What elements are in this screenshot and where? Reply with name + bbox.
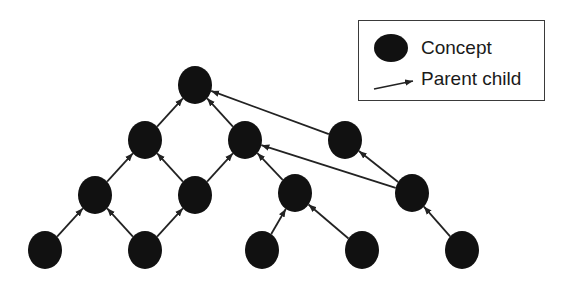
- concept-node: [128, 121, 162, 159]
- concept-node: [178, 66, 212, 104]
- concept-node: [228, 121, 262, 159]
- concept-node: [245, 231, 279, 269]
- parent-child-edge: [309, 205, 349, 239]
- parent-child-edge: [207, 98, 233, 126]
- parent-child-arrow-icon: [374, 81, 413, 89]
- parent-child-edge: [157, 98, 183, 126]
- parent-child-edge: [157, 208, 183, 236]
- parent-child-edge: [107, 153, 133, 181]
- parent-child-edge: [57, 208, 83, 236]
- concept-node: [128, 231, 162, 269]
- legend-concept-label: Concept: [421, 37, 492, 59]
- edges: [57, 91, 450, 239]
- parent-child-edge: [261, 145, 395, 188]
- concept-node-icon: [374, 34, 408, 62]
- parent-child-edge: [157, 153, 183, 181]
- concept-node: [78, 176, 112, 214]
- parent-child-edge: [424, 207, 450, 237]
- concept-node: [395, 174, 429, 212]
- concept-node: [445, 231, 479, 269]
- parent-child-edge: [207, 153, 233, 181]
- parent-child-edge: [257, 153, 282, 180]
- parent-child-edge: [211, 91, 329, 134]
- parent-child-edge: [271, 209, 286, 234]
- concept-node: [328, 121, 362, 159]
- concept-node: [345, 231, 379, 269]
- concept-node: [278, 174, 312, 212]
- concept-node: [178, 176, 212, 214]
- legend: Concept Parent child: [358, 20, 545, 101]
- parent-child-edge: [107, 208, 133, 236]
- legend-parent-child-label: Parent child: [421, 68, 521, 90]
- concept-node: [28, 231, 62, 269]
